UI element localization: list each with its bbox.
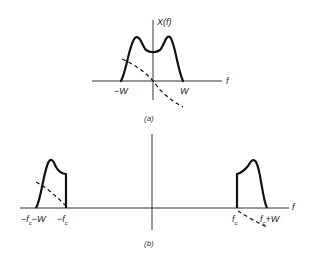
- panel-b-x-axis-label: f: [292, 203, 295, 212]
- panel-a-tick-pos-w: W: [180, 87, 189, 96]
- panel-a-tick-neg-w: −W: [114, 87, 128, 96]
- panel-b-tick-neg-fc-minus-w: −fc−W: [21, 215, 46, 226]
- panel-a-y-axis-label: X(f): [157, 18, 172, 27]
- panel-a-caption: (a): [144, 115, 154, 123]
- panel-b-right-sideband-magnitude: [237, 160, 267, 208]
- panel-a-magnitude-curve: [121, 37, 183, 81]
- panel-b-tick-pos-fc: fc: [232, 215, 238, 226]
- panel-a-x-axis-label: f: [226, 77, 229, 86]
- panel-b-tick-neg-fc: −fc: [57, 215, 68, 226]
- panel-b-caption: (b): [144, 240, 154, 248]
- panel-b-tick-pos-fc-plus-w: fc+W: [260, 215, 279, 226]
